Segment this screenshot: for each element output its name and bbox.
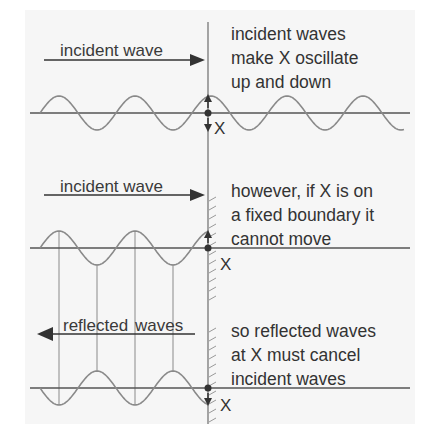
hatch-mark [209,296,216,300]
fixed-boundary-hatching-lower [209,328,216,422]
caption-line-1: incident waves [231,24,346,44]
point-x-label: X [220,255,231,274]
hatch-mark [209,224,216,228]
caption-line-3: incident waves [231,369,346,389]
hatch-mark [209,269,216,273]
incident-wave-label: incident wave [60,177,163,196]
reflected-label-part-1: reflected [63,316,128,335]
hatch-mark [209,278,216,282]
hatch-mark [209,409,216,413]
hatch-mark [209,418,216,422]
hatch-mark [209,328,216,332]
hatch-mark [209,206,216,210]
reflected-label-part-2: waves [134,316,183,335]
panel-reflection: reflected waves X so reflected waves at … [30,316,410,415]
hatch-mark [209,287,216,291]
caption-line-2: a fixed boundary it [231,205,374,225]
hatch-mark [209,346,216,350]
hatch-mark [209,355,216,359]
caption-line-3: up and down [231,72,331,92]
panel-fixed-boundary: incident wave X however, if X is on a fi… [30,177,410,274]
point-x-dot [205,245,212,252]
caption-line-1: so reflected waves [231,321,376,341]
caption-line-2: at X must cancel [231,345,360,365]
incident-arrowhead-icon [190,54,205,66]
hatch-mark [209,197,216,201]
point-x-label: X [220,396,231,415]
hatch-mark [209,260,216,264]
up-arrow-icon [204,230,212,238]
wave-reflection-diagram: incident wave X incident waves make X os… [0,0,432,436]
panel-free-oscillation: incident wave X incident waves make X os… [30,24,410,138]
hatch-mark [209,215,216,219]
point-x-dot [205,385,212,392]
caption-line-2: make X oscillate [231,48,358,68]
incident-wave-label: incident wave [60,41,163,60]
hatch-mark [209,364,216,368]
hatch-mark [209,251,216,255]
hatch-mark [209,373,216,377]
down-arrow-icon [204,398,212,406]
caption-line-3: cannot move [231,229,331,249]
hatch-mark [209,337,216,341]
down-arrow-icon [204,124,212,132]
hatch-mark [209,391,216,395]
reflected-arrowhead-icon [37,327,53,341]
incident-arrowhead-icon [190,189,205,201]
point-x-label: X [214,119,225,138]
caption-line-1: however, if X is on [231,181,373,201]
point-x-dot [205,110,212,117]
